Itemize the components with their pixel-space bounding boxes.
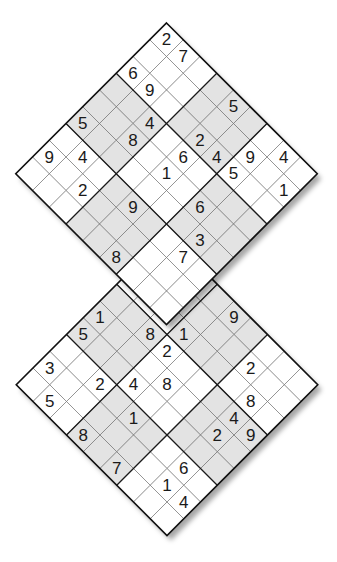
given-digit: 8	[162, 375, 171, 394]
given-digit: 4	[78, 148, 87, 167]
given-digit: 4	[212, 148, 221, 167]
given-digit: 6	[128, 64, 137, 83]
given-digit: 8	[79, 426, 88, 445]
given-digit: 5	[79, 325, 88, 344]
given-digit: 1	[179, 325, 188, 344]
given-digit: 1	[162, 164, 171, 183]
given-digit: 8	[246, 392, 255, 411]
given-digit: 6	[179, 459, 188, 478]
given-digit: 7	[179, 248, 188, 267]
given-digit: 4	[145, 114, 154, 133]
given-digit: 9	[246, 426, 255, 445]
given-digit: 3	[195, 231, 204, 250]
given-digit: 5	[78, 114, 87, 133]
given-digit: 2	[246, 359, 255, 378]
given-digit: 4	[129, 375, 138, 394]
given-digit: 9	[246, 148, 255, 167]
given-digit: 1	[129, 409, 138, 428]
sudoku-board: 1958123224858148297614 27695548294649415…	[0, 0, 337, 562]
given-digit: 7	[179, 47, 188, 66]
given-digit: 6	[179, 148, 188, 167]
given-digit: 2	[213, 426, 222, 445]
given-digit: 1	[95, 308, 104, 327]
given-digit: 6	[195, 198, 204, 217]
given-digit: 4	[279, 148, 288, 167]
given-digit: 9	[229, 308, 238, 327]
given-digit: 2	[95, 375, 104, 394]
given-digit: 8	[112, 248, 121, 267]
given-digit: 9	[128, 198, 137, 217]
given-digit: 1	[162, 476, 171, 495]
given-digit: 2	[162, 342, 171, 361]
given-digit: 9	[145, 81, 154, 100]
given-digit: 2	[195, 131, 204, 150]
given-digit: 2	[162, 30, 171, 49]
given-digit: 5	[229, 164, 238, 183]
given-digit: 8	[128, 131, 137, 150]
given-digit: 4	[179, 493, 188, 512]
given-digit: 5	[229, 97, 238, 116]
given-digit: 4	[229, 409, 238, 428]
given-digit: 7	[112, 459, 121, 478]
given-digit: 1	[279, 181, 288, 200]
given-digit: 3	[45, 359, 54, 378]
given-digit: 9	[45, 148, 54, 167]
given-digit: 5	[45, 392, 54, 411]
given-digit: 8	[146, 325, 155, 344]
top-diamond-grid: 276955482946494152196387	[16, 23, 318, 325]
given-digit: 2	[78, 181, 87, 200]
